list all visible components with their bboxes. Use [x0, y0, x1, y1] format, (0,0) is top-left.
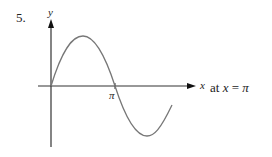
x-axis-label: x [200, 79, 205, 91]
condition-text: at x = π [210, 80, 249, 96]
y-axis-label: y [48, 6, 53, 18]
x-axis-arrow-icon [187, 83, 196, 89]
y-axis-arrow-icon [48, 19, 54, 28]
sine-graph [0, 0, 272, 157]
pi-tick-label: π [109, 89, 115, 101]
